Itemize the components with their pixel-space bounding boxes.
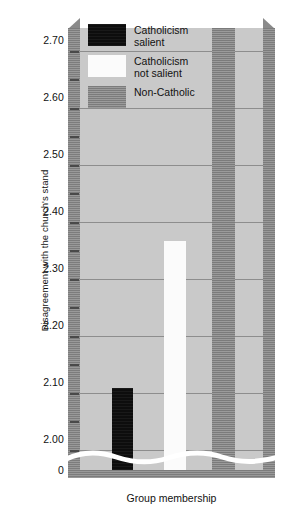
tick-major: [70, 393, 79, 395]
plot-left-wall: [68, 28, 80, 478]
tick-major: [70, 108, 79, 110]
legend-item-non-catholic[interactable]: Non-Catholic: [88, 86, 212, 108]
y-tick-label: 2.40: [20, 205, 64, 217]
y-tick-label: 2.50: [20, 148, 64, 160]
bar-chart-figure: Disagreement with the church's stand 2.7…: [0, 0, 295, 523]
y-tick-label: 2.60: [20, 91, 64, 103]
bar-catholicism-salient[interactable]: [112, 388, 133, 470]
tick-major: [70, 222, 79, 224]
y-tick-label: 2.70: [20, 34, 64, 46]
tick-minor: [70, 250, 79, 252]
legend-item-label: Catholicism not salient: [134, 55, 188, 79]
plot-right-wall: [263, 28, 275, 478]
y-tick-label: 2.30: [20, 262, 64, 274]
y-axis-zero-label: 0: [20, 464, 64, 476]
gray-swatch-icon: [88, 86, 126, 108]
legend-item-label: Catholicism salient: [134, 24, 188, 48]
y-axis-tick-marks: [80, 28, 81, 470]
tick-major: [70, 51, 79, 53]
y-tick-label: 2.10: [20, 376, 64, 388]
gridline-250: [80, 165, 263, 166]
legend-item-catholicism-not-salient[interactable]: Catholicism not salient: [88, 55, 212, 79]
tick-minor: [70, 136, 79, 138]
chart-legend: Catholicism salient Catholicism not sali…: [88, 24, 212, 115]
y-tick-label: 2.00: [20, 433, 64, 445]
white-swatch-icon: [88, 55, 126, 77]
tick-minor: [70, 364, 79, 366]
black-swatch-icon: [88, 24, 126, 46]
bar-non-catholic[interactable]: [212, 28, 235, 470]
bar-catholicism-not-salient[interactable]: [164, 241, 186, 471]
y-axis-tick-labels: 2.70 2.60 2.50 2.40 2.30 2.20 2.10 2.00 …: [14, 0, 64, 523]
x-axis-title: Group membership: [68, 492, 275, 504]
tick-major: [70, 450, 79, 452]
tick-major: [70, 279, 79, 281]
tick-major: [70, 165, 79, 167]
tick-minor: [70, 307, 79, 309]
tick-minor: [70, 79, 79, 81]
tick-major: [70, 336, 79, 338]
legend-item-catholicism-salient[interactable]: Catholicism salient: [88, 24, 212, 48]
gridline-240: [80, 222, 263, 223]
legend-item-label: Non-Catholic: [134, 86, 195, 99]
y-tick-label: 2.20: [20, 319, 64, 331]
tick-minor: [70, 421, 79, 423]
tick-minor: [70, 193, 79, 195]
